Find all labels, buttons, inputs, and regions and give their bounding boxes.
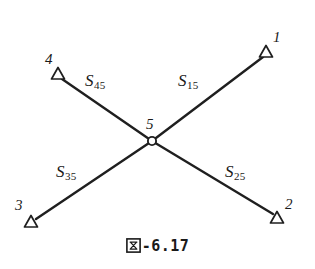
edge-subscript-s35: 35 [65,170,77,182]
figure-caption-number: -6.17 [142,237,190,255]
edge-subscript-s15: 15 [187,79,199,91]
edge-label-s25: S25 [225,163,245,182]
station-label-3: 3 [15,198,23,213]
edge-label-s35: S35 [56,163,76,182]
edge-subscript-s25: 25 [234,170,246,182]
edge-symbol-s15: S [178,71,187,90]
survey-network-diagram [0,0,315,269]
station-label-5: 5 [146,117,154,132]
edge-symbol-s45: S [85,71,94,90]
station-label-4: 4 [45,52,53,67]
edge-line-s25 [152,141,273,214]
figure-caption: -6.17 [0,236,315,255]
edge-line-s35 [36,141,152,219]
edge-label-s15: S15 [178,72,198,91]
station-marker-5 [148,137,156,145]
edge-line-s15 [152,57,263,141]
edge-line-s45 [62,79,152,141]
edge-subscript-s45: 45 [94,79,106,91]
station-label-2: 2 [285,197,293,212]
station-label-1: 1 [273,30,281,45]
edge-symbol-s25: S [225,162,234,181]
station-marker-1 [260,46,273,58]
edge-label-s45: S45 [85,72,105,91]
station-marker-3 [25,216,38,228]
edge-symbol-s35: S [56,162,65,181]
station-marker-4 [52,68,65,80]
figure-container: 1 2 3 4 5 S15 S25 S35 S45 -6.17 [0,0,315,269]
figure-kanji-glyph [126,238,141,253]
